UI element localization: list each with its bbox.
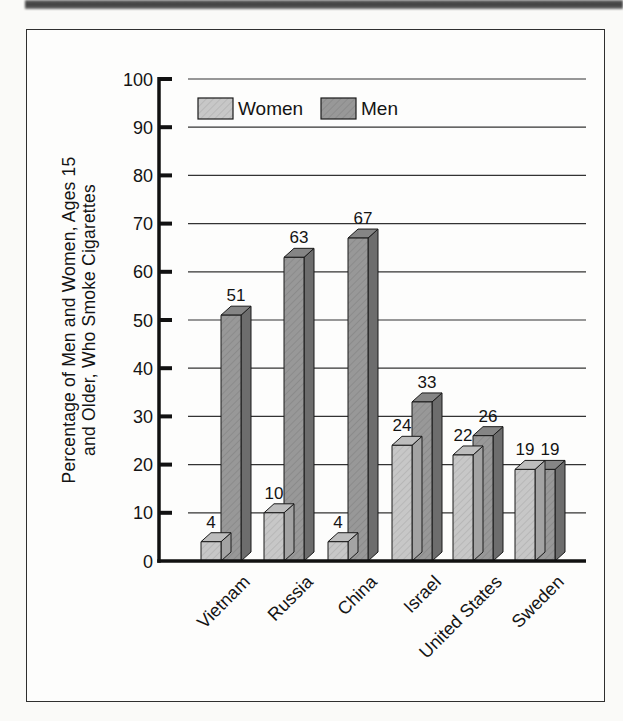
value-label-israel-women: 24 — [393, 416, 412, 435]
y-tick-label-0: 0 — [143, 552, 153, 572]
y-tick-label-10: 10 — [133, 503, 153, 523]
value-label-israel-men: 33 — [418, 373, 437, 392]
value-label-sweden-women: 19 — [516, 440, 535, 459]
y-axis-title-line-2: and Older, Who Smoke Cigarettes — [79, 184, 99, 456]
bar-russia-men-side — [304, 248, 314, 561]
x-category-label-israel: Israel — [400, 572, 445, 617]
bar-israel-men-side — [432, 393, 442, 561]
bar-vietnam-men-front — [221, 315, 241, 561]
bar-sweden-women-front — [515, 469, 535, 561]
y-tick-label-80: 80 — [133, 166, 153, 186]
bar-china-men-front — [348, 238, 368, 561]
bar-united-states-women-side — [473, 446, 483, 561]
y-tick-label-90: 90 — [133, 118, 153, 138]
x-category-label-russia: Russia — [264, 571, 318, 625]
y-tick-label-100: 100 — [123, 70, 153, 90]
bar-israel-women-side — [412, 436, 422, 561]
y-tick-label-50: 50 — [133, 311, 153, 331]
bar-israel-women-front — [392, 445, 412, 561]
value-label-united-states-women: 22 — [454, 426, 473, 445]
value-label-united-states-men: 26 — [479, 407, 498, 426]
y-tick-label-60: 60 — [133, 262, 153, 282]
page-header-strip — [25, 0, 623, 9]
figure-box: 0102030405060708090100451106346724332226… — [26, 29, 605, 702]
value-label-vietnam-women: 4 — [206, 513, 215, 532]
bar-sweden-men-side — [555, 460, 565, 561]
legend-swatch-women — [198, 98, 233, 119]
value-label-russia-women: 10 — [265, 484, 284, 503]
x-category-label-sweden: Sweden — [508, 572, 568, 632]
value-label-china-women: 4 — [333, 513, 342, 532]
bar-russia-women-front — [264, 513, 284, 561]
legend-swatch-men — [321, 98, 356, 119]
bar-united-states-men-side — [493, 427, 503, 561]
value-label-sweden-men: 19 — [541, 440, 560, 459]
value-label-china-men: 67 — [354, 209, 373, 228]
value-label-vietnam-men: 51 — [227, 286, 246, 305]
bar-vietnam-men-side — [241, 306, 251, 561]
bar-china-women-front — [328, 542, 348, 561]
legend-label-women: Women — [238, 98, 303, 119]
y-tick-label-20: 20 — [133, 455, 153, 475]
y-axis-title-line-1: Percentage of Men and Women, Ages 15 — [59, 157, 79, 484]
y-tick-label-30: 30 — [133, 407, 153, 427]
bar-sweden-women-side — [535, 460, 545, 561]
bar-united-states-women-front — [453, 455, 473, 561]
bar-vietnam-women-front — [201, 542, 221, 561]
x-category-label-china: China — [333, 571, 381, 619]
legend-label-men: Men — [361, 98, 398, 119]
value-label-russia-men: 63 — [290, 228, 309, 247]
smoking-percentage-bar-chart: 0102030405060708090100451106346724332226… — [27, 30, 603, 700]
y-tick-label-40: 40 — [133, 359, 153, 379]
y-tick-label-70: 70 — [133, 214, 153, 234]
bar-russia-women-side — [284, 504, 294, 561]
bar-china-men-side — [368, 229, 378, 561]
x-category-label-vietnam: Vietnam — [193, 572, 254, 633]
